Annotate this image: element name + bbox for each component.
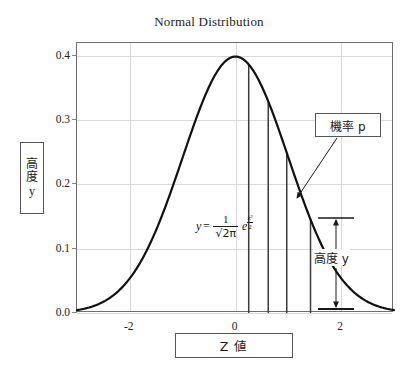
formula-fraction: 1 √2π	[213, 214, 238, 240]
probability-callout-box: 機率 p	[315, 113, 381, 137]
formula-exponent-denominator: 2	[248, 224, 252, 231]
formula-denominator: √2π	[213, 228, 238, 240]
formula-equals: =	[202, 219, 210, 234]
annotation-overlay	[0, 0, 418, 374]
formula-exponent: z² 2	[247, 215, 252, 231]
chart-root: Normal Distribution 0.00.10.20.30.4 -202…	[0, 0, 418, 374]
formula-exponent-numerator: z²	[247, 215, 252, 222]
formula-lhs: y	[196, 219, 201, 234]
probability-callout-label: 機率 p	[330, 117, 365, 134]
height-annotation-label: 高度 y	[313, 249, 350, 266]
probability-arrow-icon	[297, 138, 337, 198]
pdf-formula: y = 1 √2π e z² 2	[196, 214, 253, 240]
formula-numerator: 1	[220, 214, 232, 225]
